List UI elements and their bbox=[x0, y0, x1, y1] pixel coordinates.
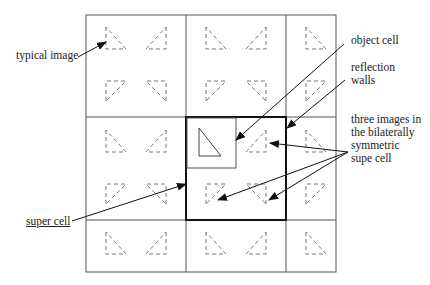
arrow-typical-image bbox=[78, 42, 106, 57]
label-three-images-2: the bilaterally bbox=[351, 126, 415, 139]
label-reflection-walls-2: walls bbox=[351, 74, 375, 87]
label-object-cell: object cell bbox=[351, 34, 399, 47]
arrow-super-cell bbox=[72, 184, 186, 221]
arrows bbox=[72, 42, 348, 221]
arrow-three-images-2 bbox=[218, 152, 348, 200]
label-three-images-1: three images in bbox=[351, 113, 421, 126]
label-reflection-walls-1: reflection bbox=[351, 61, 395, 74]
object-cell bbox=[187, 118, 236, 168]
object-triangle bbox=[199, 128, 221, 156]
label-typical-image: typical image bbox=[16, 49, 78, 62]
label-three-images-4: supe cell bbox=[351, 152, 392, 165]
label-three-images-3: symmetric bbox=[351, 139, 400, 152]
label-super-cell: super cell bbox=[26, 215, 70, 228]
